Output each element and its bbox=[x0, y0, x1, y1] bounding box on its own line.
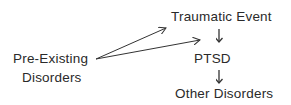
arrow-preexisting-to-traumatic bbox=[96, 28, 166, 59]
node-pre-existing-line1: Pre-Existing bbox=[13, 51, 88, 66]
node-ptsd: PTSD bbox=[194, 51, 231, 66]
node-pre-existing-line2: Disorders bbox=[22, 70, 82, 85]
node-other-disorders: Other Disorders bbox=[175, 86, 273, 101]
arrow-preexisting-to-ptsd bbox=[96, 40, 200, 59]
node-traumatic-event: Traumatic Event bbox=[171, 9, 272, 24]
